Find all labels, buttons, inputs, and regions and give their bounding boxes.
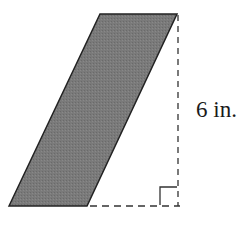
right-angle-marker — [160, 187, 177, 205]
height-label: 6 in. — [196, 98, 237, 121]
parallelogram-shape — [9, 14, 177, 206]
